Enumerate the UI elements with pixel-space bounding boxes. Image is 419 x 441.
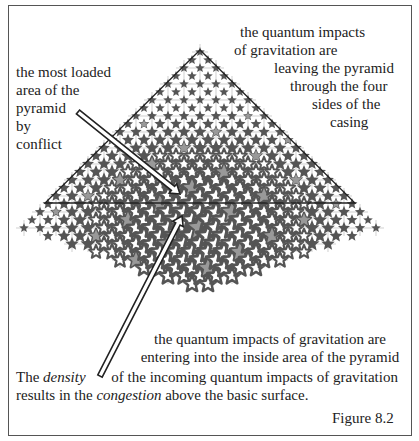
star-icon	[250, 133, 263, 145]
star-icon	[27, 215, 37, 224]
star-icon	[218, 118, 230, 129]
star-icon	[266, 134, 278, 146]
star-icon	[282, 149, 295, 161]
star-icon	[154, 118, 165, 129]
star-icon	[203, 103, 213, 112]
star-icon	[219, 103, 229, 112]
star-icon	[123, 119, 133, 129]
star-icon	[202, 118, 214, 129]
star-icon	[203, 55, 213, 64]
star-icon	[330, 213, 343, 225]
star-icon	[187, 87, 197, 96]
label-most-loaded-area: the most loaded area of the pyramid by c…	[16, 63, 111, 153]
star-icon	[186, 118, 198, 129]
star-icon	[171, 87, 181, 96]
star-icon	[298, 150, 310, 161]
caption-density: The density of the incoming quantum impa…	[16, 368, 398, 404]
star-icon	[233, 133, 246, 146]
star-icon	[363, 215, 373, 224]
star-icon	[74, 166, 86, 177]
star-icon	[153, 133, 166, 146]
label-entering-pyramid: the quantum impacts of gravitation are e…	[130, 330, 410, 366]
star-icon	[122, 134, 134, 146]
star-icon	[43, 230, 54, 241]
star-icon	[219, 71, 229, 80]
star-icon	[58, 213, 71, 225]
figure-number: Figure 8.2	[332, 410, 394, 427]
star-icon	[170, 118, 182, 129]
star-icon	[187, 71, 197, 80]
star-icon	[347, 214, 358, 225]
star-icon	[171, 71, 181, 80]
star-icon	[155, 103, 165, 112]
star-icon	[187, 55, 197, 64]
star-icon	[43, 214, 54, 225]
star-icon	[187, 103, 197, 112]
star-icon	[347, 230, 358, 241]
star-icon	[138, 133, 151, 145]
label-leaving-pyramid: the quantum impacts of gravitation are l…	[240, 23, 394, 131]
star-icon	[155, 87, 165, 96]
star-icon	[314, 166, 326, 177]
star-icon	[219, 87, 229, 96]
star-icon	[139, 103, 149, 112]
star-icon	[171, 103, 181, 112]
star-icon	[203, 87, 213, 96]
star-icon	[203, 71, 213, 80]
